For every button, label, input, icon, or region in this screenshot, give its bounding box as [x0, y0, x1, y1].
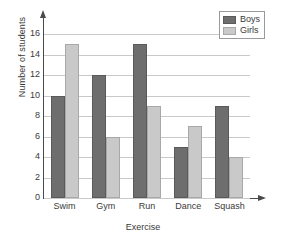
plot-area — [44, 24, 250, 198]
y-tick-label: 8 — [20, 111, 40, 120]
y-tick-label: 10 — [20, 91, 40, 100]
y-tick-label: 4 — [20, 152, 40, 161]
legend: BoysGirls — [219, 11, 265, 39]
x-tick-label-squash: Squash — [209, 201, 250, 211]
bar-swim-boys — [51, 96, 65, 198]
bar-gym-boys — [92, 75, 106, 198]
y-tick-label: 16 — [20, 29, 40, 38]
bar-run-boys — [133, 44, 147, 198]
bar-dance-boys — [174, 147, 188, 198]
y-axis-tick-labels: 0246810121416 — [18, 24, 40, 198]
y-tick-label: 6 — [20, 132, 40, 141]
bar-run-girls — [147, 106, 161, 198]
y-tick-label: 12 — [20, 70, 40, 79]
legend-swatch-girls — [223, 27, 236, 35]
bar-squash-boys — [215, 106, 229, 198]
x-tick-label-run: Run — [126, 201, 167, 211]
bar-chart: Number of students 0246810121416 SwimGym… — [0, 0, 286, 245]
x-tick-label-gym: Gym — [85, 201, 126, 211]
legend-swatch-boys — [223, 16, 236, 24]
bar-squash-girls — [229, 157, 243, 198]
x-axis-title: Exercise — [0, 222, 286, 232]
y-tick-label: 0 — [20, 193, 40, 202]
legend-item-girls: Girls — [223, 25, 260, 36]
x-tick-label-dance: Dance — [168, 201, 209, 211]
y-tick-label: 2 — [20, 173, 40, 182]
x-axis-right-arrow-icon — [258, 195, 266, 201]
x-tick-label-swim: Swim — [44, 201, 85, 211]
legend-label-girls: Girls — [240, 25, 259, 36]
gridline — [44, 198, 250, 199]
x-axis-category-labels: SwimGymRunDanceSquash — [44, 201, 250, 217]
legend-item-boys: Boys — [223, 14, 260, 25]
legend-label-boys: Boys — [240, 14, 260, 25]
bar-dance-girls — [188, 126, 202, 198]
bar-gym-girls — [106, 137, 120, 198]
y-axis-up-arrow-icon — [40, 10, 46, 18]
y-tick-label: 14 — [20, 50, 40, 59]
bar-swim-girls — [65, 44, 79, 198]
